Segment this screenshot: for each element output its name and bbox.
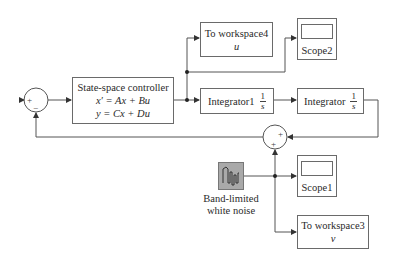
- to-workspace3-var: v: [331, 232, 336, 245]
- integrator-transfer-function: 1 s: [350, 92, 357, 111]
- to-workspace3-block[interactable]: To workspace3 v: [297, 215, 369, 249]
- integrator-label: Integrator: [304, 95, 345, 108]
- scope1-screen-icon: [301, 161, 333, 176]
- integrator1-transfer-function: 1 s: [260, 92, 267, 111]
- to-workspace3-title: To workspace3: [301, 219, 365, 232]
- integrator-block[interactable]: Integrator 1 s: [297, 88, 364, 114]
- to-workspace4-title: To workspace4: [205, 27, 269, 40]
- scope2-screen-icon: [301, 24, 333, 39]
- sum2-plus-bottom-sign: +: [271, 140, 276, 149]
- state-space-title: State-space controller: [77, 81, 168, 94]
- noise-label: Band-limited white noise: [190, 193, 272, 217]
- state-equation: x′ = Ax + Bu: [96, 94, 150, 107]
- scope1-label: Scope1: [302, 181, 333, 194]
- integrator1-label: Integrator1: [208, 95, 255, 108]
- integrator1-block[interactable]: Integrator1 1 s: [200, 88, 274, 114]
- state-space-controller-block[interactable]: State-space controller x′ = Ax + Bu y = …: [72, 77, 174, 124]
- to-workspace4-block[interactable]: To workspace4 u: [200, 22, 273, 57]
- noise-waveform-icon: [219, 163, 243, 189]
- band-limited-white-noise-block[interactable]: [218, 162, 244, 190]
- sum1-plus-sign: +: [27, 96, 32, 105]
- output-equation: y = Cx + Du: [96, 107, 150, 120]
- scope2-label: Scope2: [302, 44, 333, 57]
- sum1-minus-sign: −: [33, 104, 38, 113]
- to-workspace4-var: u: [234, 40, 239, 53]
- sum2-plus-right-sign: +: [278, 130, 283, 139]
- scope2-block[interactable]: Scope2: [297, 18, 337, 60]
- scope1-block[interactable]: Scope1: [297, 155, 337, 197]
